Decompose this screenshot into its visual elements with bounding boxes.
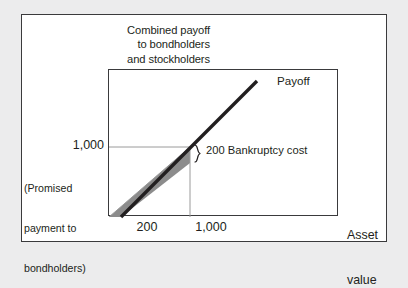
- y-axis-note-line-1: (Promised: [24, 182, 108, 195]
- y-axis-note-line-3: bondholders): [24, 262, 108, 275]
- x-axis-title-line-2: value: [347, 273, 407, 288]
- figure-panel: Combined payoff to bondholders and stock…: [21, 14, 387, 242]
- chart-title-line-3: and stockholders: [30, 52, 210, 66]
- y-axis-note-line-2: payment to: [24, 222, 108, 235]
- x-axis-title: Asset value: [347, 198, 407, 288]
- x-axis-title-line-1: Asset: [347, 228, 407, 243]
- chart-title-line-1: Combined payoff: [30, 23, 210, 37]
- asset-value-reference-line: [109, 147, 190, 217]
- payoff-series-label: Payoff: [277, 74, 310, 87]
- bankruptcy-cost-label: 200 Bankruptcy cost: [206, 144, 307, 156]
- y-axis-note: (Promised payment to bondholders): [24, 156, 108, 288]
- chart-title-line-2: to bondholders: [30, 37, 210, 51]
- x-axis-tick-label-200: 200: [124, 220, 170, 234]
- x-axis-tick-label-1000: 1,000: [185, 220, 237, 234]
- y-axis-tick-label-1000: 1,000: [48, 138, 104, 152]
- plot-frame: Payoff 200 Bankruptcy cost 200 1,000 Ass…: [108, 69, 338, 216]
- bankruptcy-cost-brace: [195, 145, 200, 162]
- chart-title: Combined payoff to bondholders and stock…: [30, 23, 210, 66]
- plot-area: Payoff 200 Bankruptcy cost 200 1,000 Ass…: [109, 70, 337, 215]
